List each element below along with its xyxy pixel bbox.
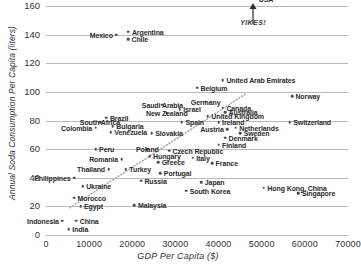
data-point (217, 144, 220, 147)
data-point (196, 86, 199, 89)
data-point (217, 121, 220, 124)
data-point (109, 131, 112, 134)
data-point-label: Italy (196, 154, 210, 161)
data-point-label: Norway (295, 93, 320, 100)
data-point-label: Austria (200, 126, 223, 133)
data-point (125, 168, 128, 171)
y-tick-label-160: 160 (6, 0, 40, 11)
data-point-label: Slovakia (155, 130, 183, 137)
data-point (150, 132, 153, 135)
y-tick-label-20: 20 (6, 200, 40, 211)
data-point (206, 115, 209, 118)
data-point (115, 33, 118, 36)
data-point-label: Ukraine (86, 183, 111, 190)
y-tick-label-120: 120 (6, 57, 40, 68)
data-point (168, 149, 171, 152)
data-point-label: New Zealand (146, 110, 188, 117)
data-point (263, 186, 266, 189)
data-point-label: Canada (226, 104, 251, 111)
data-point-label: Malaysia (138, 201, 166, 208)
data-point (112, 125, 115, 128)
data-point-label: Germany (191, 98, 221, 105)
data-point (73, 176, 76, 179)
y-tick-label-100: 100 (6, 86, 40, 97)
x-tick-label-50000: 50000 (249, 239, 275, 249)
data-point-label: Saudi Arabia (142, 101, 183, 108)
data-point-label: Venezuela (114, 128, 147, 135)
data-point-label: Thailand (77, 166, 105, 173)
data-point-label: Poland (136, 146, 159, 153)
data-point-label: Peru (99, 146, 114, 153)
data-point (191, 156, 194, 159)
data-point (159, 172, 162, 175)
data-point (81, 185, 84, 188)
data-point-label: Spain (185, 118, 204, 125)
plot-area: USAMexicoArgentinaChileUnited Arab Emira… (46, 6, 348, 235)
data-point (222, 106, 225, 109)
data-point-label: United Arab Emirates (226, 77, 295, 84)
data-point (185, 189, 188, 192)
x-tick-label-0: 0 (43, 239, 48, 249)
data-point (75, 219, 78, 222)
data-point-label: Chile (131, 35, 148, 42)
data-point (73, 196, 76, 199)
data-point (94, 126, 97, 129)
data-point-label: Denmark (229, 134, 258, 141)
data-point-label: Japan (205, 179, 225, 186)
y-tick-label-80: 80 (6, 115, 40, 126)
data-point-label: Mexico (90, 31, 113, 38)
x-axis-line (46, 235, 348, 236)
y-tick-label-140: 140 (6, 29, 40, 40)
x-tick-label-10000: 10000 (76, 239, 102, 249)
data-point-label: Switzerland (293, 118, 331, 125)
data-point-label: China (80, 217, 99, 224)
data-point-label: Greece (162, 159, 185, 166)
data-point (235, 126, 238, 129)
data-point-label: Singapore (302, 190, 335, 197)
data-point (127, 38, 130, 41)
data-point (200, 181, 203, 184)
data-point-label: Morocco (78, 194, 106, 201)
data-point-label: Argentina (132, 28, 164, 35)
data-point-label: Colombia (61, 124, 92, 131)
data-point-label: Belgium (201, 84, 228, 91)
data-point (61, 219, 64, 222)
data-point-label: Indonesia (27, 217, 59, 224)
data-point (148, 155, 151, 158)
x-tick-label-60000: 60000 (292, 239, 318, 249)
x-axis-title: GDP Per Capita ($) (0, 251, 356, 261)
data-point (226, 128, 229, 131)
y-tick-label-40: 40 (6, 172, 40, 183)
data-point (297, 192, 300, 195)
data-point (94, 148, 97, 151)
data-point (181, 121, 184, 124)
data-point (127, 30, 130, 33)
gridline-y-160 (46, 6, 348, 7)
data-point (288, 121, 291, 124)
x-tick-label-30000: 30000 (162, 239, 188, 249)
data-point (224, 136, 227, 139)
data-point-label: South Korea (190, 187, 231, 194)
x-tick-label-70000: 70000 (335, 239, 361, 249)
data-point (79, 205, 82, 208)
x-tick-label-20000: 20000 (119, 239, 145, 249)
data-point-label: Egypt (84, 203, 103, 210)
data-point-label: France (216, 160, 238, 167)
data-point-label: Portugal (164, 170, 192, 177)
data-point (120, 158, 123, 161)
data-point-label: Romania (89, 156, 118, 163)
data-point (291, 95, 294, 98)
data-point (68, 228, 71, 231)
data-point-label: Finland (222, 141, 246, 148)
data-point (140, 179, 143, 182)
gridline-y-120 (46, 63, 348, 64)
data-point-label: Turkey (129, 166, 151, 173)
data-point (211, 162, 214, 165)
data-point (133, 204, 136, 207)
data-point (107, 168, 110, 171)
data-point (222, 79, 225, 82)
data-point-label: Russia (144, 177, 166, 184)
y-tick-label-0: 0 (6, 229, 40, 240)
data-point (157, 161, 160, 164)
